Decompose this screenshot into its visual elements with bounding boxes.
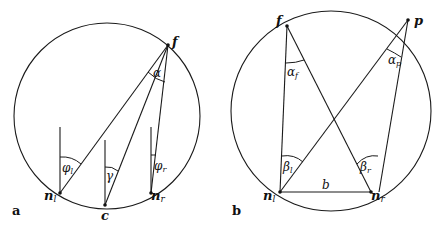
label-nl: nl — [263, 188, 275, 204]
label-p: p — [414, 13, 423, 28]
label-alpha-f: αf — [287, 65, 300, 80]
label-nr: nr — [371, 188, 385, 204]
line-p-nr — [379, 20, 408, 192]
label-beta-r: βr — [359, 160, 372, 175]
label-c: c — [101, 208, 109, 223]
label-phi-r: φr — [154, 159, 167, 174]
label-beta-l: βl — [282, 160, 293, 175]
label-gamma: γ — [106, 169, 114, 183]
panel-label-a: a — [12, 203, 21, 218]
arc-alpha-f — [286, 60, 304, 63]
circle-b — [231, 11, 431, 211]
panel-b: f p αf αp βl βr b nl nr b — [231, 11, 431, 218]
point-f — [285, 24, 289, 28]
label-f: f — [171, 34, 180, 49]
line-f-nr — [287, 26, 371, 192]
label-f: f — [275, 13, 284, 28]
label-baseline-b: b — [322, 178, 330, 192]
point-nl — [58, 191, 62, 195]
point-p — [406, 18, 410, 22]
panel-label-b: b — [232, 203, 241, 218]
label-phi-l: φl — [62, 161, 73, 176]
diagram-canvas: f α φl γ φr nl c nr a f p αf αp — [0, 0, 433, 229]
label-nl: nl — [44, 188, 56, 204]
panel-a: f α φl γ φr nl c nr a — [12, 23, 200, 223]
point-f — [166, 43, 170, 47]
line-f-nl — [60, 45, 168, 193]
line-p-nl — [280, 20, 408, 192]
label-alpha-p: αp — [388, 53, 401, 68]
point-nl — [278, 190, 282, 194]
label-alpha: α — [153, 66, 161, 80]
point-c — [103, 203, 107, 207]
